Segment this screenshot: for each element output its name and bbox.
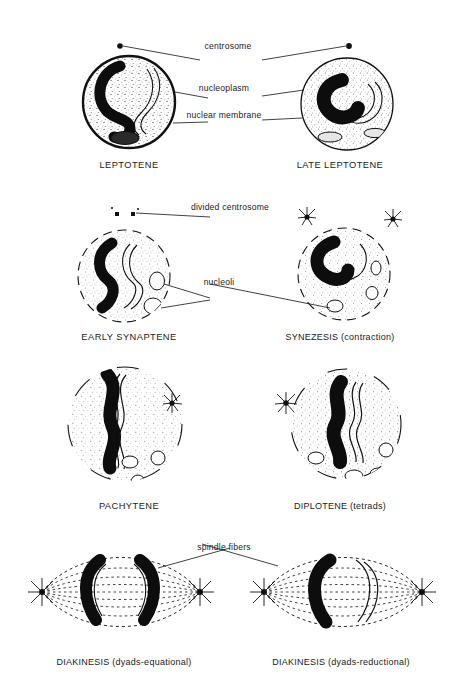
stage-synezesis: [272, 198, 412, 326]
centrosome-dot: [346, 43, 352, 49]
nucleolus: [364, 128, 386, 137]
chromosome-dark: [334, 382, 341, 462]
nucleolus: [327, 300, 343, 312]
stage-diakinesis-reductional: [238, 540, 450, 645]
annotation-spindle-fibers: spindle fibers: [197, 542, 250, 552]
caption-pachytene: PACHYTENE: [99, 501, 159, 511]
chromosome-dyad-dark: [86, 560, 100, 620]
annotation-nucleoplasm: nucleoplasm: [199, 83, 249, 93]
stage-diakinesis-equational: [18, 540, 230, 645]
nucleolus: [379, 443, 393, 457]
nucleolus: [122, 456, 138, 468]
nucleolus: [308, 452, 324, 464]
stage-late-leptotene: [282, 30, 412, 155]
nucleolus: [366, 287, 378, 300]
nucleolus: [318, 132, 342, 142]
centrosome-dot: [131, 212, 135, 216]
nucleolus: [131, 475, 145, 489]
centrosome-dot: [115, 212, 119, 216]
caption-diplotene: DIPLOTENE (tetrads): [294, 501, 386, 511]
nucleolus: [151, 451, 165, 465]
chromosome-dark: [107, 374, 115, 468]
caption-late-leptotene: LATE LEPTOTENE: [297, 160, 384, 170]
caption-synezesis: SYNEZESIS (contraction): [286, 332, 395, 342]
leader-line-centrosome: [262, 46, 346, 60]
stage-leptotene: [68, 30, 193, 155]
nucleolus: [345, 470, 363, 482]
nucleolus: [150, 272, 165, 290]
annotation-centrosome: centrosome: [205, 41, 252, 51]
caption-early-synaptene: EARLY SYNAPTENE: [81, 332, 176, 342]
meiosis-diagram: centrosome nucleoplasm nuclear membrane …: [0, 0, 453, 695]
caption-diakinesis-reductional: DIAKINESIS (dyads-reductional): [272, 657, 410, 667]
spindle-fibers: [264, 568, 422, 616]
caption-leptotene: LEPTOTENE: [99, 160, 158, 170]
leader-line-nucleoli: [161, 300, 210, 308]
annotation-nucleoli: nucleoli: [204, 277, 235, 287]
annotation-nuclear-membrane: nuclear membrane: [187, 110, 262, 120]
centrosome-speck: [137, 208, 139, 210]
leader-line-nuclear-membrane: [173, 122, 208, 123]
chromosome-dyad-dark: [140, 560, 154, 620]
stage-diplotene: [268, 358, 413, 488]
aster-right: [384, 209, 402, 227]
chromosome-dyad-outline: [356, 560, 370, 622]
stage-early-synaptene: [60, 198, 195, 326]
nucleolus: [111, 132, 139, 145]
leader-line-nucleoplasm: [262, 90, 304, 96]
nucleolus: [371, 261, 381, 275]
nucleolus: [370, 468, 386, 480]
aster-left: [298, 207, 316, 225]
centrosome-dot: [117, 43, 123, 49]
chromosome-dyad-dark: [315, 560, 331, 622]
stage-pachytene: [62, 358, 197, 488]
annotation-divided-centrosome: divided centrosome: [191, 202, 269, 212]
spindle-fibers: [42, 568, 200, 616]
leader-line-nuclear-membrane: [262, 118, 302, 120]
leader-line-divided-centrosome: [136, 213, 210, 217]
centrosome-speck: [111, 207, 113, 209]
caption-diakinesis-equational: DIAKINESIS (dyads-equational): [57, 657, 192, 667]
